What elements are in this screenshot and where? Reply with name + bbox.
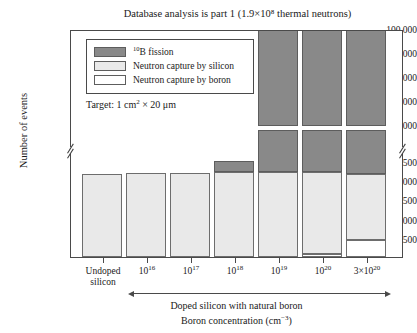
- x-label-line2: silicon: [90, 277, 115, 287]
- y-axis-title: Number of events: [18, 66, 29, 196]
- legend-swatch-fission: [94, 47, 126, 57]
- x-axis-title: Boron concentration (cm−3): [70, 315, 403, 326]
- x-tick: [191, 258, 192, 263]
- x-label-exp: 17: [192, 264, 199, 272]
- x-tick-label-3e20: 3×1020: [334, 266, 400, 277]
- x-label-base: 10: [315, 266, 325, 276]
- bar-segment-silicon: [258, 172, 298, 257]
- legend-label-fission: 10B fission: [133, 47, 174, 57]
- x-label-base: 3×10: [354, 266, 374, 276]
- bar-segment-fission: [302, 130, 342, 172]
- x-tick: [323, 258, 324, 263]
- bar-segment-silicon: [170, 173, 210, 257]
- chart-title: Database analysis is part 1 (1.9×10⁸ the…: [70, 8, 405, 20]
- target-annotation-suffix: × 20 μm: [140, 99, 176, 110]
- bar-segment-silicon: [126, 173, 166, 257]
- bar-segment-fission: [214, 161, 254, 172]
- bar-segment-silicon: [302, 172, 342, 254]
- x-label-base: 10: [271, 266, 281, 276]
- bar-segment-boron: [302, 254, 342, 257]
- legend-swatch-boron: [94, 75, 126, 85]
- doped-range-arrow: [128, 290, 391, 297]
- x-label-exp: 20: [324, 264, 331, 272]
- x-label-exp: 18: [236, 264, 243, 272]
- x-label-exp: 16: [148, 264, 155, 272]
- x-tick: [147, 258, 148, 263]
- x-axis-caption: Doped silicon with natural boron: [70, 300, 403, 311]
- legend-swatch-silicon: [94, 61, 126, 71]
- bar-segment-fission-upper: [302, 30, 342, 126]
- legend-item-silicon: Neutron capture by silicon: [94, 59, 246, 73]
- legend-text-fission: B fission: [140, 47, 174, 57]
- plot-area: 10B fission Neutron capture by silicon N…: [70, 30, 403, 258]
- x-axis-title-base: Boron concentration (cm: [181, 315, 281, 326]
- target-annotation-prefix: Target: 1 cm: [86, 99, 136, 110]
- bar-segment-fission: [346, 130, 386, 174]
- x-tick: [279, 258, 280, 263]
- legend-item-fission: 10B fission: [94, 45, 246, 59]
- x-tick: [235, 258, 236, 263]
- bar-segment-fission: [258, 130, 298, 172]
- bar-segment-silicon: [346, 174, 386, 240]
- bar-segment-silicon: [82, 174, 122, 257]
- x-label-base: 10: [227, 266, 237, 276]
- legend-label-silicon: Neutron capture by silicon: [133, 61, 234, 71]
- x-tick: [367, 258, 368, 263]
- bar-segment-silicon: [214, 172, 254, 257]
- x-label-exp: 20: [373, 264, 380, 272]
- arrow-shaft: [132, 293, 387, 294]
- legend-item-boron: Neutron capture by boron: [94, 73, 246, 87]
- x-axis-title-tail: ): [289, 315, 292, 326]
- x-axis-title-exp: −3: [281, 314, 288, 322]
- chart-figure: Database analysis is part 1 (1.9×10⁸ the…: [0, 0, 417, 333]
- chart-legend: 10B fission Neutron capture by silicon N…: [86, 39, 254, 94]
- arrow-head-right: [385, 291, 391, 297]
- bar-segment-fission-upper: [258, 30, 298, 126]
- x-label-exp: 19: [280, 264, 287, 272]
- bar-segment-fission-upper: [346, 30, 386, 126]
- target-annotation: Target: 1 cm2 × 20 μm: [86, 99, 176, 110]
- bar-segment-boron: [346, 240, 386, 257]
- x-tick: [103, 258, 104, 263]
- legend-label-boron: Neutron capture by boron: [133, 75, 231, 85]
- x-label-base: 10: [183, 266, 193, 276]
- x-label-base: 10: [139, 266, 149, 276]
